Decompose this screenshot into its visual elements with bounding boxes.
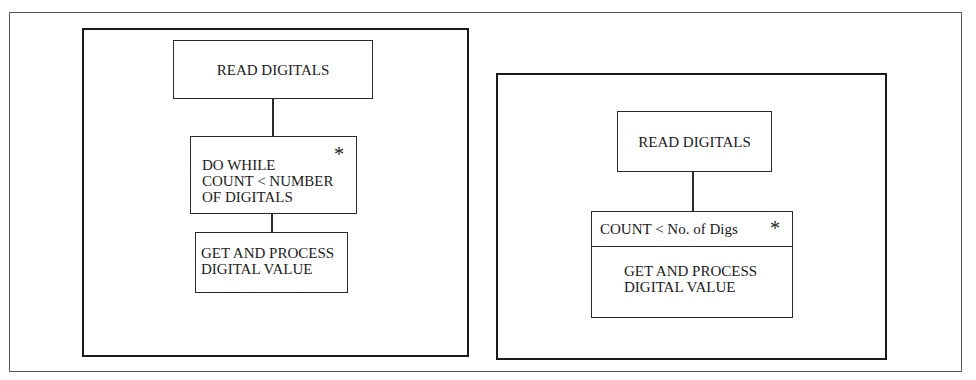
left-process-label: GET AND PROCESS DIGITAL VALUE: [201, 245, 334, 277]
left-loop-line: OF DIGITALS: [202, 189, 334, 205]
right-combined-box: COUNT < No. of Digs * GET AND PROCESS DI…: [591, 211, 793, 318]
left-read-digitals-box: READ DIGITALS: [173, 40, 373, 99]
left-connector-1: [272, 99, 274, 136]
left-process-line: DIGITAL VALUE: [201, 261, 334, 277]
left-read-digitals-label: READ DIGITALS: [217, 62, 330, 78]
right-connector: [692, 172, 694, 212]
right-process-label: GET AND PROCESS DIGITAL VALUE: [624, 263, 757, 295]
right-read-digitals-box: READ DIGITALS: [617, 111, 772, 172]
right-iteration-marker: *: [770, 218, 780, 238]
left-process-box: GET AND PROCESS DIGITAL VALUE: [195, 232, 348, 293]
right-condition-header: COUNT < No. of Digs *: [592, 212, 792, 247]
left-loop-line: COUNT < NUMBER: [202, 173, 334, 189]
right-process-line: DIGITAL VALUE: [624, 279, 757, 295]
left-process-line: GET AND PROCESS: [201, 245, 334, 261]
left-loop-condition: DO WHILE COUNT < NUMBER OF DIGITALS: [202, 157, 334, 205]
left-connector-2: [271, 214, 273, 233]
left-iteration-marker: *: [334, 144, 344, 164]
right-read-digitals-label: READ DIGITALS: [638, 134, 751, 150]
left-loop-line: DO WHILE: [202, 157, 334, 173]
left-do-while-box: * DO WHILE COUNT < NUMBER OF DIGITALS: [190, 136, 357, 214]
right-process-line: GET AND PROCESS: [624, 263, 757, 279]
right-condition-label: COUNT < No. of Digs: [600, 221, 738, 237]
